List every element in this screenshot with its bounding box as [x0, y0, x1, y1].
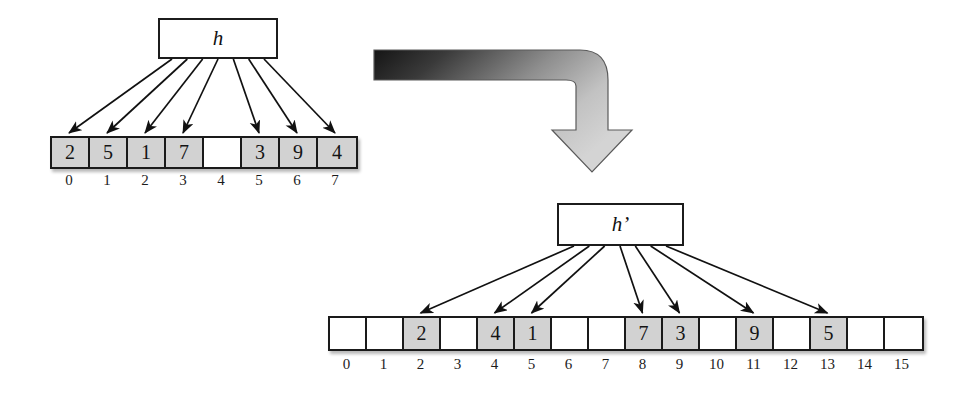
before-cell-3: 7 [166, 138, 204, 167]
index-row-before: 01234567 [50, 172, 354, 189]
after-cell-10 [700, 318, 737, 349]
after-cell-6 [552, 318, 589, 349]
after-cell-14 [848, 318, 885, 349]
before-cell-2: 1 [128, 138, 166, 167]
after-cell-4: 4 [478, 318, 515, 349]
after-index-0: 0 [328, 356, 365, 373]
after-index-12: 12 [772, 356, 809, 373]
before-cell-6: 9 [280, 138, 318, 167]
after-cell-2: 2 [404, 318, 441, 349]
after-index-9: 9 [661, 356, 698, 373]
after-cell-12 [774, 318, 811, 349]
after-index-4: 4 [476, 356, 513, 373]
h-arrow-to-0 [69, 59, 172, 133]
hash-function-box-h: h [158, 18, 278, 59]
h-prime-arrow-to-4 [495, 246, 590, 313]
before-cell-1: 5 [90, 138, 128, 167]
after-index-13: 13 [809, 356, 846, 373]
after-index-8: 8 [624, 356, 661, 373]
after-index-1: 1 [365, 356, 402, 373]
after-cell-3 [441, 318, 478, 349]
after-cell-13: 5 [811, 318, 848, 349]
after-cell-1 [367, 318, 404, 349]
h-arrow-to-7 [264, 59, 335, 133]
h-prime-arrow-to-13 [666, 246, 828, 313]
h-prime-arrow-to-8 [620, 246, 643, 313]
after-index-2: 2 [402, 356, 439, 373]
after-index-15: 15 [883, 356, 920, 373]
before-index-6: 6 [278, 172, 316, 189]
before-cell-7: 4 [318, 138, 356, 167]
hash-table-before: 2517394 [50, 136, 358, 169]
h-arrow-to-5 [233, 59, 259, 133]
h-arrow-to-1 [107, 59, 187, 133]
before-cell-5: 3 [242, 138, 280, 167]
after-cell-9: 3 [663, 318, 700, 349]
after-index-10: 10 [698, 356, 735, 373]
before-index-7: 7 [316, 172, 354, 189]
after-cell-8: 7 [626, 318, 663, 349]
after-index-3: 3 [439, 356, 476, 373]
hash-function-label-h: h [213, 26, 224, 51]
before-index-1: 1 [88, 172, 126, 189]
before-cell-4 [204, 138, 242, 167]
transition-arrow-icon [370, 44, 635, 176]
before-index-4: 4 [202, 172, 240, 189]
after-cell-7 [589, 318, 626, 349]
h-prime-arrow-to-2 [421, 246, 575, 313]
after-cell-11: 9 [737, 318, 774, 349]
before-cell-0: 2 [52, 138, 90, 167]
h-arrow-to-6 [249, 59, 297, 133]
after-cell-5: 1 [515, 318, 552, 349]
before-index-2: 2 [126, 172, 164, 189]
hash-function-label-h-prime: h’ [612, 212, 630, 237]
h-prime-arrow-to-9 [635, 246, 679, 313]
h-arrow-to-2 [145, 59, 203, 133]
before-index-0: 0 [50, 172, 88, 189]
after-cell-0 [330, 318, 367, 349]
diagram-canvas: h h’ 2517394 01234567 2417395 0123456789… [0, 0, 963, 402]
index-row-after: 0123456789101112131415 [328, 356, 920, 373]
hash-table-after: 2417395 [328, 316, 924, 351]
h-prime-arrow-to-11 [651, 246, 754, 313]
after-index-5: 5 [513, 356, 550, 373]
after-cell-15 [885, 318, 922, 349]
after-index-7: 7 [587, 356, 624, 373]
h-prime-arrow-to-5 [532, 246, 605, 313]
after-index-6: 6 [550, 356, 587, 373]
before-index-3: 3 [164, 172, 202, 189]
h-arrow-to-3 [183, 59, 218, 133]
after-index-11: 11 [735, 356, 772, 373]
after-index-14: 14 [846, 356, 883, 373]
hash-function-box-h-prime: h’ [557, 203, 684, 246]
before-index-5: 5 [240, 172, 278, 189]
